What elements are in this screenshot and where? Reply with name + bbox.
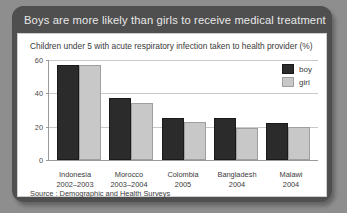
bar-malawi-girl[interactable] (288, 127, 310, 160)
page-title: Boys are more likely than girls to recei… (24, 14, 326, 26)
bar-malawi-boy[interactable] (266, 123, 288, 160)
bar-morocco-boy[interactable] (109, 98, 131, 160)
x-label-indonesia-name: Indonesia (48, 170, 102, 180)
legend: boy girl (282, 64, 312, 87)
x-label-colombia: Colombia 2005 (156, 170, 210, 190)
x-label-bangladesh-year: 2004 (210, 180, 264, 190)
tick-0 (46, 160, 49, 161)
x-label-malawi-name: Malawi (264, 170, 318, 180)
bar-bangladesh-boy[interactable] (214, 118, 236, 160)
y-tick-0: 0 (39, 156, 43, 165)
bar-group-colombia (157, 60, 209, 160)
plot-area: 60 40 20 0 (30, 60, 318, 168)
bar-colombia-boy[interactable] (162, 118, 184, 160)
x-label-malawi-year: 2004 (264, 180, 318, 190)
x-label-indonesia: Indonesia 2002–2003 (48, 170, 102, 190)
x-label-malawi: Malawi 2004 (264, 170, 318, 190)
bar-group-bangladesh (210, 60, 262, 160)
bar-groups (49, 60, 318, 160)
y-tick-40: 40 (35, 89, 43, 98)
legend-label-boy: boy (299, 65, 312, 74)
y-axis-labels: 60 40 20 0 (30, 60, 46, 160)
legend-swatch-boy-icon (282, 64, 294, 74)
y-tick-60: 60 (35, 56, 43, 65)
x-label-bangladesh-name: Bangladesh (210, 170, 264, 180)
bar-indonesia-boy[interactable] (57, 65, 79, 160)
bar-group-indonesia (53, 60, 105, 160)
source-note: Source : Demographic and Health Surveys (30, 189, 170, 198)
x-axis-labels: Indonesia 2002–2003 Morocco 2003–2004 Co… (48, 170, 318, 190)
legend-label-girl: girl (299, 78, 310, 87)
chart-card: Boys are more likely than girls to recei… (12, 6, 332, 202)
x-label-morocco: Morocco 2003–2004 (102, 170, 156, 190)
bar-colombia-girl[interactable] (184, 122, 206, 160)
bar-group-morocco (105, 60, 157, 160)
legend-swatch-girl-icon (282, 77, 294, 87)
legend-item-girl[interactable]: girl (282, 77, 312, 87)
card-header: Boys are more likely than girls to recei… (12, 6, 332, 33)
legend-item-boy[interactable]: boy (282, 64, 312, 74)
y-tick-20: 20 (35, 122, 43, 131)
x-label-bangladesh: Bangladesh 2004 (210, 170, 264, 190)
bar-morocco-girl[interactable] (131, 103, 153, 160)
x-label-morocco-name: Morocco (102, 170, 156, 180)
x-label-colombia-name: Colombia (156, 170, 210, 180)
screenshot-root: Boys are more likely than girls to recei… (0, 0, 347, 213)
bar-indonesia-girl[interactable] (79, 65, 101, 160)
chart-subtitle: Children under 5 with acute respiratory … (30, 41, 313, 51)
chart-panel: Children under 5 with acute respiratory … (17, 33, 327, 197)
bar-bangladesh-girl[interactable] (236, 128, 258, 160)
grid-area: boy girl (48, 60, 318, 161)
